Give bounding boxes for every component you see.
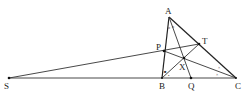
point-S xyxy=(8,77,11,80)
label-A: A xyxy=(165,6,172,16)
angle-mark-C2: × xyxy=(216,72,218,77)
point-B xyxy=(161,77,163,79)
label-T: T xyxy=(202,36,208,46)
label-S: S xyxy=(4,81,9,91)
label-C: C xyxy=(235,81,241,91)
angle-mark-A1: o xyxy=(168,25,170,30)
angle-mark-A2: o xyxy=(172,24,174,29)
segment-PC xyxy=(164,51,236,78)
angle-mark-B2: • xyxy=(168,73,170,78)
angle-mark-C1: × xyxy=(218,65,220,70)
point-Q xyxy=(190,77,193,80)
point-P xyxy=(163,50,166,53)
label-P: P xyxy=(156,42,161,52)
label-B: B xyxy=(159,81,165,91)
label-X: X xyxy=(179,62,186,72)
point-C xyxy=(235,77,237,79)
segment-ST xyxy=(9,44,199,78)
point-X xyxy=(183,57,186,60)
geometry-diagram: o o ■ • × × A B C S P T Q X xyxy=(0,0,243,92)
point-T xyxy=(198,43,201,46)
label-Q: Q xyxy=(188,81,195,91)
